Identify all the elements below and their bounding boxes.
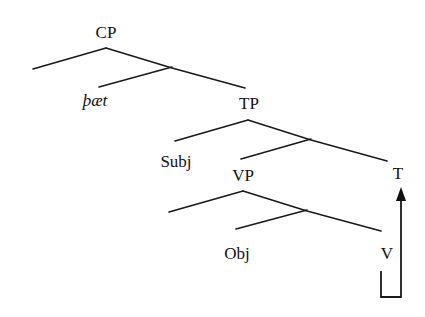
node-complementizer-label: þæt [81,91,109,110]
branch-vbar-left [236,210,307,229]
branch-tp-right [248,120,387,161]
syntax-tree-diagram: CP þæt TP Subj T VP Obj V [0,0,425,317]
node-v-label: V [381,244,394,263]
node-subj-label: Subj [160,152,191,171]
arrowhead-icon [396,187,406,201]
node-cp-label: CP [96,23,117,42]
node-tp-label: TP [239,94,259,113]
branch-cbar-left [99,67,172,87]
branch-tp-left [175,120,248,141]
branch-cp-right [106,48,245,88]
node-vp-label: VP [232,166,254,185]
node-t-label: T [393,164,404,183]
branch-vp-left [169,191,243,212]
branch-cp-left [33,48,106,69]
node-obj-label: Obj [224,244,250,263]
branch-vp-right [243,191,381,231]
branch-tbar-left [241,139,311,159]
